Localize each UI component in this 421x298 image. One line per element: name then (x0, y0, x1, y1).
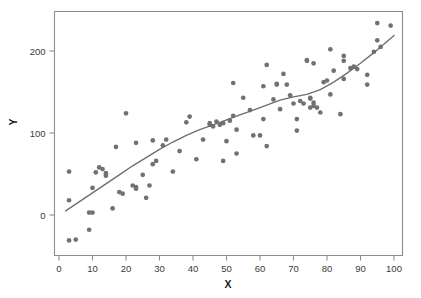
x-tick-label: 40 (188, 263, 199, 274)
data-point (264, 144, 269, 149)
y-tick-label: 0 (40, 210, 45, 221)
data-point (261, 117, 266, 122)
data-point (147, 183, 152, 188)
data-point (221, 159, 226, 164)
data-point (234, 127, 239, 132)
data-point (311, 100, 316, 105)
data-point (177, 149, 182, 154)
data-point (375, 38, 380, 43)
data-point (261, 84, 266, 89)
plot-canvas: 0102030405060708090100 0100200 X Y (0, 0, 421, 298)
data-point (144, 195, 149, 200)
data-point (110, 206, 115, 211)
x-tick-label: 100 (386, 263, 402, 274)
data-point (365, 82, 370, 87)
data-point (281, 72, 286, 77)
data-point (90, 186, 95, 191)
data-point (124, 111, 129, 116)
data-point (87, 227, 92, 232)
x-axis-ticks: 0102030405060708090100 (56, 256, 402, 274)
data-point (375, 21, 380, 26)
data-point (241, 95, 246, 100)
plot-border (55, 12, 403, 256)
data-point (301, 101, 306, 106)
data-point (90, 210, 95, 215)
data-point (201, 137, 206, 142)
x-tick-label: 30 (154, 263, 165, 274)
data-point (295, 128, 300, 133)
data-point (187, 114, 192, 119)
data-point (231, 81, 236, 86)
data-point (164, 137, 169, 142)
data-point (328, 47, 333, 52)
x-tick-label: 20 (121, 263, 132, 274)
data-point (331, 68, 336, 73)
data-point (341, 54, 346, 59)
data-point (341, 58, 346, 63)
y-tick-label: 100 (30, 128, 46, 139)
data-point (251, 133, 256, 138)
data-point (365, 72, 370, 77)
plot-frame (55, 12, 403, 256)
data-point (134, 185, 139, 190)
x-tick-label: 10 (87, 263, 98, 274)
y-axis-ticks: 0100200 (30, 46, 55, 221)
data-point (308, 96, 313, 101)
data-point (305, 58, 310, 63)
x-tick-label: 80 (322, 263, 333, 274)
data-point (328, 92, 333, 97)
data-point (274, 81, 279, 86)
data-point (150, 162, 155, 167)
data-point (120, 191, 125, 196)
data-point (284, 82, 289, 87)
data-point (67, 238, 72, 243)
data-point (73, 237, 78, 242)
data-point (171, 169, 176, 174)
data-point (318, 110, 323, 115)
data-point (271, 97, 276, 102)
data-point (224, 139, 229, 144)
data-point (134, 140, 139, 145)
data-point (264, 63, 269, 68)
x-tick-label: 60 (255, 263, 266, 274)
data-point (311, 61, 316, 66)
data-point (140, 172, 145, 177)
data-point (114, 145, 119, 150)
data-point (94, 170, 99, 175)
data-point (100, 167, 105, 172)
x-tick-label: 90 (355, 263, 366, 274)
data-point (184, 120, 189, 125)
scatter-plot-figure: 0102030405060708090100 0100200 X Y (0, 0, 421, 298)
data-point (325, 78, 330, 83)
data-point (104, 171, 109, 176)
y-tick-label: 200 (30, 46, 46, 57)
data-point (338, 112, 343, 117)
data-point (295, 117, 300, 122)
data-point (154, 159, 159, 164)
data-point (258, 133, 263, 138)
data-point (150, 138, 155, 143)
x-axis-title: X (224, 278, 231, 290)
data-point (67, 169, 72, 174)
data-point (388, 23, 393, 28)
data-point (234, 151, 239, 156)
data-point (67, 198, 72, 203)
y-axis-title: Y (7, 118, 19, 125)
data-point (291, 101, 296, 106)
x-tick-label: 0 (56, 263, 61, 274)
x-tick-label: 70 (288, 263, 299, 274)
data-point (315, 105, 320, 110)
x-tick-label: 50 (221, 263, 232, 274)
data-point (278, 107, 283, 112)
data-point (194, 157, 199, 162)
scatter-points-layer (67, 21, 393, 243)
